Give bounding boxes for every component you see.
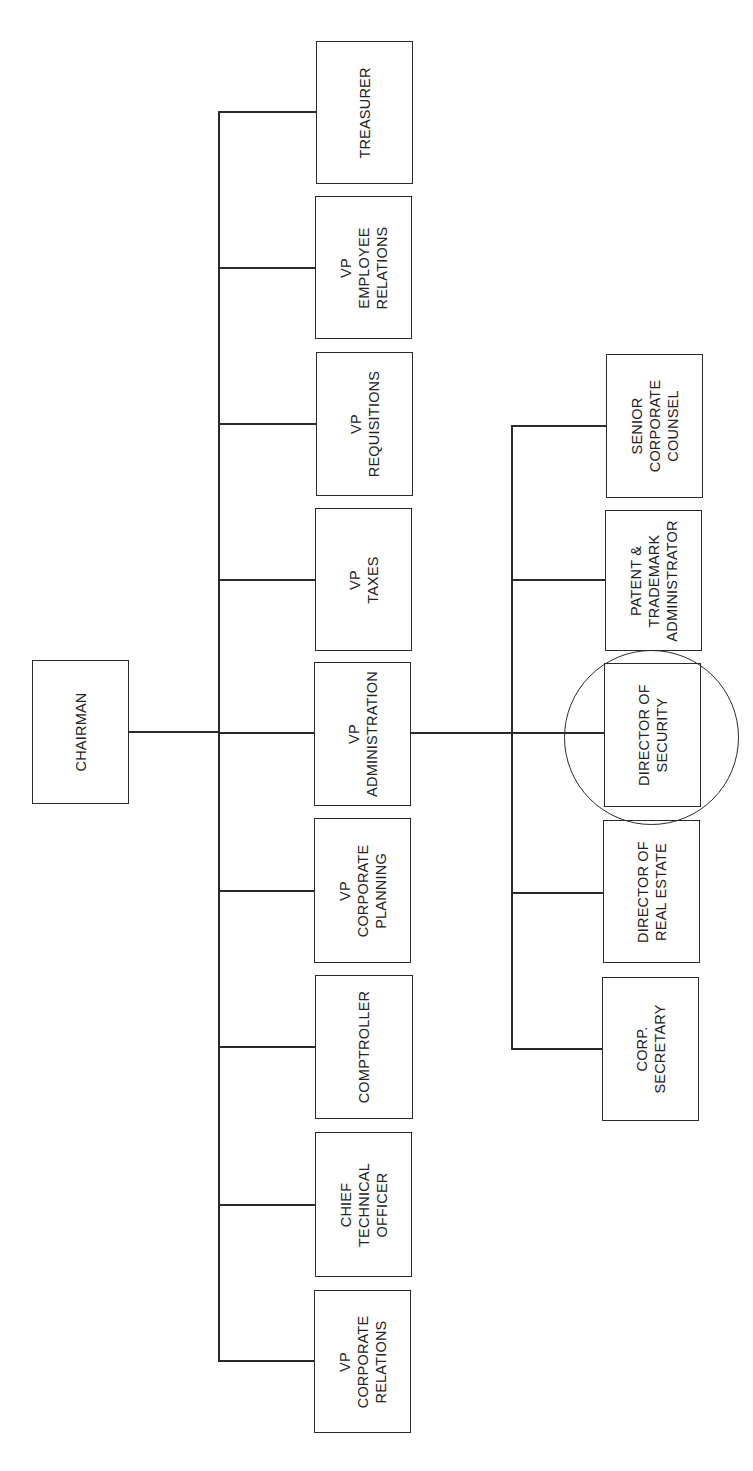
org-box-director-of-security: DIRECTOR OF SECURITY bbox=[604, 663, 701, 807]
connector-corp-secretary bbox=[511, 1048, 605, 1050]
org-box-label: CORP. SECRETARY bbox=[633, 1004, 669, 1093]
org-box-corp-secretary: CORP. SECRETARY bbox=[602, 977, 699, 1121]
org-box-label: CHAIRMAN bbox=[72, 693, 90, 772]
org-box-vp-taxes: VP TAXES bbox=[315, 508, 412, 651]
org-box-label: COMPTROLLER bbox=[355, 991, 373, 1104]
sub-trunk-line bbox=[511, 425, 513, 1049]
org-box-label: VP CORPORATE PLANNING bbox=[336, 844, 390, 937]
org-box-comptroller: COMPTROLLER bbox=[315, 975, 413, 1119]
org-box-label: TREASURER bbox=[356, 67, 374, 158]
org-box-vp-employee-relations: VP EMPLOYEE RELATIONS bbox=[315, 196, 412, 339]
connector-treasurer bbox=[218, 111, 316, 113]
connector-comptroller bbox=[218, 1046, 316, 1048]
connector-vp-corporate-planning bbox=[218, 890, 316, 892]
org-chart: CHAIRMAN TREASURER VP EMPLOYEE RELATIONS… bbox=[0, 0, 753, 1471]
org-box-label: SENIOR CORPORATE COUNSEL bbox=[628, 380, 682, 473]
connector-senior-corporate-counsel bbox=[511, 425, 606, 427]
org-box-label: PATENT & TRADEMARK ADMINISTRATOR bbox=[627, 520, 681, 641]
org-box-label: VP EMPLOYEE RELATIONS bbox=[337, 226, 391, 309]
org-box-label: VP ADMINISTRATION bbox=[345, 671, 381, 797]
connector-vp-taxes bbox=[218, 579, 316, 581]
org-box-vp-corporate-planning: VP CORPORATE PLANNING bbox=[314, 818, 411, 963]
org-box-treasurer: TREASURER bbox=[316, 41, 413, 184]
org-box-label: VP TAXES bbox=[346, 556, 382, 603]
connector-vp-requisitions bbox=[218, 423, 316, 425]
org-box-chief-technical-officer: CHIEF TECHNICAL OFFICER bbox=[315, 1132, 412, 1277]
org-box-label: DIRECTOR OF REAL ESTATE bbox=[634, 841, 670, 943]
org-box-vp-administration: VP ADMINISTRATION bbox=[314, 662, 411, 806]
org-box-label: VP CORPORATE RELATIONS bbox=[336, 1315, 390, 1408]
org-box-vp-requisitions: VP REQUISITIONS bbox=[316, 352, 413, 496]
connector-director-of-real-estate bbox=[511, 892, 605, 894]
org-box-director-of-real-estate: DIRECTOR OF REAL ESTATE bbox=[603, 820, 700, 963]
connector-vp-administration-subtree bbox=[411, 732, 605, 734]
org-box-label: DIRECTOR OF SECURITY bbox=[635, 684, 671, 786]
connector-chief-technical-officer bbox=[218, 1204, 316, 1206]
org-box-patent-trademark-administrator: PATENT & TRADEMARK ADMINISTRATOR bbox=[605, 510, 702, 651]
org-box-chairman: CHAIRMAN bbox=[32, 660, 129, 804]
connector-patent-trademark-administrator bbox=[511, 579, 606, 581]
connector-vp-corporate-relations bbox=[218, 1360, 316, 1362]
org-box-label: CHIEF TECHNICAL OFFICER bbox=[337, 1163, 391, 1247]
org-box-senior-corporate-counsel: SENIOR CORPORATE COUNSEL bbox=[606, 354, 703, 498]
main-trunk-line bbox=[218, 111, 220, 1361]
org-box-vp-corporate-relations: VP CORPORATE RELATIONS bbox=[314, 1290, 411, 1433]
connector-vp-administration bbox=[218, 732, 316, 734]
org-box-label: VP REQUISITIONS bbox=[347, 371, 383, 477]
connector-chairman bbox=[128, 731, 219, 733]
connector-vp-employee-relations bbox=[218, 267, 316, 269]
